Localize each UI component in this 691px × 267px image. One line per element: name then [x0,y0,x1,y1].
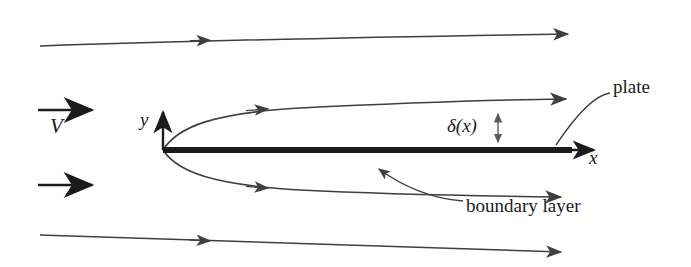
velocity-label: V [50,116,63,137]
streamline-boundary-layer-lower [163,150,561,197]
boundary-layer-label: boundary layer [466,196,580,215]
flat-plate [163,147,572,153]
streamline-far-field-upper [40,34,568,46]
streamline-far-field-lower [40,235,561,252]
streamline-boundary-layer-upper [163,99,566,150]
plate-leader-line [556,93,610,145]
boundary-layer-figure: V y x δ(x) plate boundary layer [0,0,691,267]
plate-label: plate [613,77,650,96]
figure-canvas [0,0,691,267]
y-axis-label: y [140,110,148,129]
boundary-layer-leader-line [379,169,463,201]
boundary-layer-thickness-label: δ(x) [447,116,477,135]
x-axis-label: x [589,148,597,167]
